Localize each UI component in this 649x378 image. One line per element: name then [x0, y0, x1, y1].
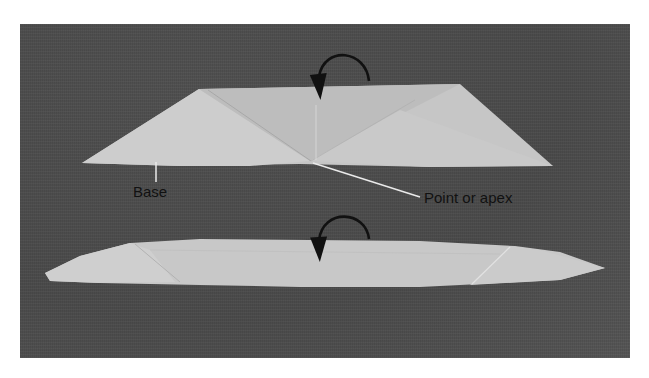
- bandage-illustration: [0, 0, 649, 378]
- top-bandage: [82, 84, 553, 167]
- base-label: Base: [133, 184, 167, 199]
- apex-label: Point or apex: [424, 190, 512, 205]
- bottom-bandage: [45, 239, 605, 287]
- leader-lines: [156, 162, 420, 197]
